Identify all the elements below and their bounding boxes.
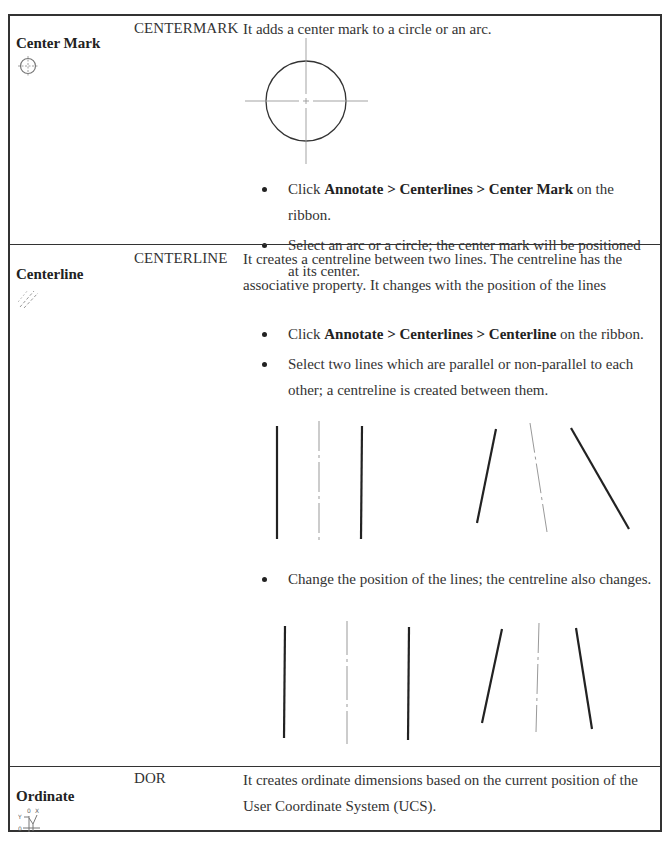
svg-text:X: X bbox=[35, 807, 39, 814]
step-item: Click Annotate > Centerlines > Center Ma… bbox=[260, 176, 655, 228]
tool-description: It creates ordinate dimensions based on … bbox=[243, 767, 653, 819]
tool-description: It creates a centreline between two line… bbox=[243, 246, 653, 298]
table-row-center-mark: Center Mark CENTERMARK It adds a center … bbox=[10, 16, 660, 245]
centerline-figure-initial bbox=[242, 416, 662, 550]
center-mark-icon bbox=[18, 56, 38, 80]
tool-name: Center Mark bbox=[16, 35, 100, 52]
table-row-centerline: Centerline CENTERLINE It creates a centr… bbox=[10, 245, 660, 767]
command-name: DOR bbox=[134, 770, 166, 787]
step-item: Change the position of the lines; the ce… bbox=[260, 566, 655, 592]
tool-name: Centerline bbox=[16, 266, 83, 283]
steps-list-after-figure: Change the position of the lines; the ce… bbox=[260, 566, 655, 596]
circle-center-mark-figure bbox=[243, 38, 383, 172]
centerline-figure-repositioned bbox=[242, 618, 662, 757]
step-item: Click Annotate > Centerlines > Centerlin… bbox=[260, 321, 655, 347]
command-name: CENTERMARK bbox=[134, 20, 238, 37]
command-reference-table: Center Mark CENTERMARK It adds a center … bbox=[8, 14, 662, 832]
ordinate-icon: 0 X Y 0 bbox=[18, 807, 42, 837]
table-row-ordinate: Ordinate 0 X Y 0 DOR It creates ordinate… bbox=[10, 767, 660, 832]
centerline-icon bbox=[18, 287, 40, 313]
svg-text:0: 0 bbox=[27, 807, 31, 814]
command-name: CENTERLINE bbox=[134, 250, 227, 267]
tool-name: Ordinate bbox=[16, 788, 74, 805]
step-item: Select two lines which are parallel or n… bbox=[260, 351, 655, 403]
svg-text:0: 0 bbox=[18, 825, 22, 832]
steps-list: Click Annotate > Centerlines > Centerlin… bbox=[260, 321, 655, 407]
svg-text:Y: Y bbox=[18, 813, 22, 820]
